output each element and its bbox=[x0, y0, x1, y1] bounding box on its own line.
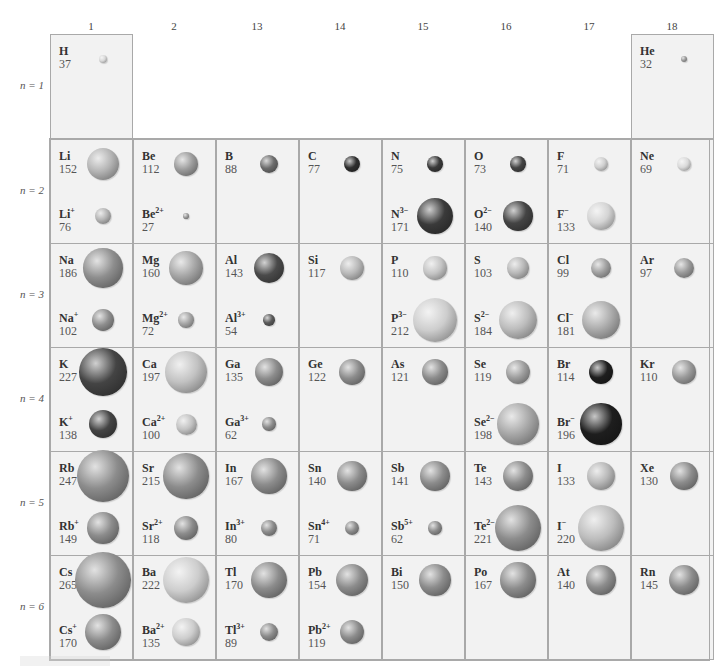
atom-label-br: Br114 bbox=[557, 358, 575, 384]
atom-sphere-po bbox=[500, 562, 535, 597]
atom-label-mg: Mg160 bbox=[142, 254, 160, 280]
atom-label-sb: Sb141 bbox=[391, 462, 409, 488]
atom-label-f: F71 bbox=[557, 150, 569, 176]
ion-label-o-symbol: O2− bbox=[474, 204, 492, 221]
ion-sphere-se bbox=[497, 403, 539, 445]
atom-sphere-ba bbox=[163, 557, 210, 604]
ion-sphere-in bbox=[261, 520, 278, 537]
atom-sphere-tl bbox=[251, 562, 287, 598]
atom-sphere-cs bbox=[75, 552, 131, 608]
atom-label-in: In167 bbox=[225, 462, 243, 488]
ion-label-tl-symbol: Tl3+ bbox=[225, 620, 245, 637]
atom-label-rn: Rn145 bbox=[640, 566, 658, 592]
ion-label-se-symbol: Se2− bbox=[474, 412, 495, 429]
ion-label-n-symbol: N3− bbox=[391, 204, 409, 221]
atom-sphere-sr bbox=[163, 453, 208, 498]
atom-label-te: Te143 bbox=[474, 462, 492, 488]
atom-label-sb-radius: 141 bbox=[391, 475, 409, 488]
ion-label-o: O2−140 bbox=[474, 204, 492, 234]
atom-label-o: O73 bbox=[474, 150, 486, 176]
ion-label-pb-symbol: Pb2+ bbox=[308, 620, 331, 637]
atom-sphere-cl bbox=[591, 258, 612, 279]
ion-sphere-na bbox=[92, 309, 113, 330]
ion-label-i-symbol: I− bbox=[557, 516, 575, 533]
atom-label-ca: Ca197 bbox=[142, 358, 160, 384]
ion-sphere-sn bbox=[345, 521, 360, 536]
atom-label-h: H37 bbox=[59, 45, 71, 71]
ion-label-p-radius: 212 bbox=[391, 325, 409, 338]
atom-label-ne: Ne69 bbox=[640, 150, 654, 176]
atom-label-se-radius: 119 bbox=[474, 371, 492, 384]
atom-label-rb: Rb247 bbox=[59, 462, 77, 488]
ion-sphere-be bbox=[183, 213, 189, 219]
group-header-2: 2 bbox=[144, 20, 204, 32]
element-cell-h: H37 bbox=[50, 34, 133, 139]
atom-label-as: As121 bbox=[391, 358, 409, 384]
ion-label-na-radius: 102 bbox=[59, 325, 78, 338]
atom-label-n: N75 bbox=[391, 150, 403, 176]
element-cell-mg: Mg160Mg2+72 bbox=[133, 243, 216, 348]
ion-label-s: S2−184 bbox=[474, 308, 492, 338]
element-cell-sn: Sn140Sn4+71 bbox=[299, 451, 382, 556]
ion-sphere-sb bbox=[428, 521, 441, 534]
ion-label-cl-radius: 181 bbox=[557, 325, 575, 338]
ion-sphere-p bbox=[413, 298, 458, 343]
ion-label-br: Br−196 bbox=[557, 412, 575, 442]
atom-label-at-radius: 140 bbox=[557, 579, 575, 592]
element-cell-f: F71F−133 bbox=[548, 139, 631, 244]
element-cell-p: P110P3−212 bbox=[382, 243, 465, 348]
ion-label-ga-radius: 62 bbox=[225, 429, 249, 442]
atom-label-ga-radius: 135 bbox=[225, 371, 243, 384]
atom-label-ge-radius: 122 bbox=[308, 371, 326, 384]
ion-label-se-radius: 198 bbox=[474, 429, 495, 442]
ion-sphere-te bbox=[495, 505, 541, 551]
atom-label-sr: Sr215 bbox=[142, 462, 160, 488]
group-header-14: 14 bbox=[310, 20, 370, 32]
atom-sphere-at bbox=[586, 565, 615, 594]
ion-label-rb: Rb+149 bbox=[59, 516, 79, 546]
ion-label-be: Be2+27 bbox=[142, 204, 164, 234]
atom-label-sr-radius: 215 bbox=[142, 475, 160, 488]
ion-label-na: Na+102 bbox=[59, 308, 78, 338]
ion-sphere-br bbox=[580, 403, 621, 444]
atom-label-n-radius: 75 bbox=[391, 163, 403, 176]
element-cell-kr: Kr110 bbox=[631, 347, 714, 452]
atom-label-ga: Ga135 bbox=[225, 358, 243, 384]
atom-sphere-as bbox=[422, 359, 447, 384]
element-cell-pb: Pb154Pb2+119 bbox=[299, 555, 382, 660]
ion-label-sb: Sb5+62 bbox=[391, 516, 413, 546]
element-cell-se: Se119Se2−198 bbox=[465, 347, 548, 452]
ion-sphere-ca bbox=[176, 414, 197, 435]
ion-label-i: I−220 bbox=[557, 516, 575, 546]
ion-label-cs-radius: 170 bbox=[59, 637, 77, 650]
ion-label-cs: Cs+170 bbox=[59, 620, 77, 650]
atom-sphere-ne bbox=[677, 157, 691, 171]
atom-label-ba-radius: 222 bbox=[142, 579, 160, 592]
ion-sphere-i bbox=[578, 505, 624, 551]
element-cell-tl: Tl170Tl3+89 bbox=[216, 555, 299, 660]
atom-label-at: At140 bbox=[557, 566, 575, 592]
atom-label-po: Po167 bbox=[474, 566, 492, 592]
atom-label-li: Li152 bbox=[59, 150, 77, 176]
ion-sphere-s bbox=[499, 301, 538, 340]
atom-sphere-n bbox=[427, 156, 443, 172]
atom-sphere-he bbox=[681, 56, 688, 63]
element-cell-cl: Cl99Cl−181 bbox=[548, 243, 631, 348]
element-cell-c: C77 bbox=[299, 139, 382, 244]
ion-label-li-radius: 76 bbox=[59, 221, 75, 234]
atom-sphere-se bbox=[506, 360, 531, 385]
element-cell-te: Te143Te2−221 bbox=[465, 451, 548, 556]
period-label-4: n = 4 bbox=[0, 392, 44, 404]
atom-label-bi: Bi150 bbox=[391, 566, 409, 592]
ion-label-br-radius: 196 bbox=[557, 429, 575, 442]
atom-sphere-te bbox=[503, 461, 533, 491]
atom-label-i: I133 bbox=[557, 462, 575, 488]
atom-label-tl: Tl170 bbox=[225, 566, 243, 592]
group-header-13: 13 bbox=[227, 20, 287, 32]
ion-label-ga-symbol: Ga3+ bbox=[225, 412, 249, 429]
ion-label-o-radius: 140 bbox=[474, 221, 492, 234]
atom-label-al-radius: 143 bbox=[225, 267, 243, 280]
atom-sphere-be bbox=[174, 152, 198, 176]
atom-label-c-radius: 77 bbox=[308, 163, 320, 176]
element-cell-sb: Sb141Sb5+62 bbox=[382, 451, 465, 556]
